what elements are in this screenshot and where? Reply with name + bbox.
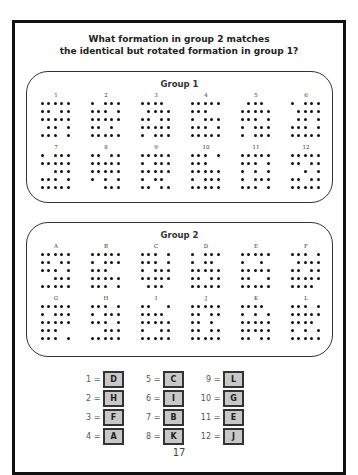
equals-sign: = (151, 394, 163, 403)
dot-icon (215, 266, 222, 274)
dot-icon (65, 183, 72, 191)
dot-icon (315, 310, 322, 318)
formation-label: 10 (181, 144, 231, 150)
dot-grid (289, 250, 322, 290)
dot-grid (239, 302, 272, 342)
dot-icon (115, 310, 122, 318)
dot-icon (215, 274, 222, 282)
dot-formation: D (181, 243, 231, 295)
dot-formation: 8 (81, 144, 131, 196)
dot-formation: E (231, 243, 281, 295)
dot-icon (215, 167, 222, 175)
dot-icon (265, 318, 272, 326)
dot-grid (189, 99, 222, 139)
dot-icon (165, 183, 172, 191)
dot-formation: 1 (31, 92, 81, 144)
dot-icon (215, 318, 222, 326)
answer-entry: 6=I (135, 389, 195, 408)
dot-icon (215, 326, 222, 334)
dot-icon (315, 326, 322, 334)
answer-entry: 8=K (135, 427, 195, 446)
equals-sign: = (91, 432, 103, 441)
answer-box: I (163, 390, 184, 407)
dot-icon (65, 115, 72, 123)
dot-icon (265, 167, 272, 175)
answer-box: F (103, 409, 124, 426)
equals-sign: = (151, 432, 163, 441)
dot-formation: C (131, 243, 181, 295)
answer-box: C (163, 371, 184, 388)
dot-icon (115, 175, 122, 183)
formation-label: K (231, 295, 281, 301)
formation-label: C (131, 243, 181, 249)
dot-grid (39, 151, 72, 191)
dot-icon (65, 175, 72, 183)
dot-grid (239, 151, 272, 191)
dot-icon (215, 151, 222, 159)
dot-icon (215, 258, 222, 266)
group-1-title: Group 1 (27, 79, 332, 89)
puzzle-question: What formation in group 2 matches the id… (15, 33, 343, 57)
dot-grid (89, 151, 122, 191)
equals-sign: = (211, 375, 223, 384)
equals-sign: = (211, 413, 223, 422)
dot-icon (165, 274, 172, 282)
dot-icon (315, 175, 322, 183)
dot-grid (189, 151, 222, 191)
answer-box: G (223, 390, 244, 407)
formation-label: 2 (81, 92, 131, 98)
dot-icon (265, 151, 272, 159)
dot-icon (265, 131, 272, 139)
formation-label: 1 (31, 92, 81, 98)
formation-label: 4 (181, 92, 231, 98)
answer-number: 6 (135, 394, 151, 403)
dot-formation: H (81, 295, 131, 347)
formation-label: B (81, 243, 131, 249)
dot-formation: 9 (131, 144, 181, 196)
dot-icon (215, 115, 222, 123)
group-1-formations: 123456789101112 (31, 92, 331, 196)
page-number: 17 (15, 447, 343, 458)
dot-grid (289, 99, 322, 139)
dot-icon (265, 282, 272, 290)
formation-label: E (231, 243, 281, 249)
answer-number: 3 (75, 413, 91, 422)
dot-grid (189, 302, 222, 342)
equals-sign: = (91, 413, 103, 422)
formation-label: 5 (231, 92, 281, 98)
group-2-panel: Group 2 ABCDEFGHIJKL (26, 222, 333, 357)
dot-icon (165, 107, 172, 115)
answer-entry: 2=H (75, 389, 135, 408)
dot-icon (315, 282, 322, 290)
dot-icon (65, 334, 72, 342)
dot-icon (265, 310, 272, 318)
dot-icon (315, 123, 322, 131)
equals-sign: = (151, 413, 163, 422)
dot-icon (215, 183, 222, 191)
formation-label: I (131, 295, 181, 301)
answer-box: K (163, 428, 184, 445)
answer-number: 12 (195, 432, 211, 441)
dot-icon (315, 167, 322, 175)
answer-box: L (223, 371, 244, 388)
formation-label: 8 (81, 144, 131, 150)
dot-icon (115, 334, 122, 342)
dot-icon (215, 282, 222, 290)
dot-icon (65, 151, 72, 159)
dot-icon (265, 266, 272, 274)
answer-number: 2 (75, 394, 91, 403)
dot-icon (265, 175, 272, 183)
dot-icon (115, 318, 122, 326)
dot-icon (65, 123, 72, 131)
dot-icon (115, 302, 122, 310)
answer-box: J (223, 428, 244, 445)
dot-icon (115, 123, 122, 131)
dot-icon (165, 266, 172, 274)
puzzle-page-frame: What formation in group 2 matches the id… (12, 20, 346, 475)
dot-icon (65, 266, 72, 274)
dot-icon (165, 159, 172, 167)
answer-entry: 10=G (195, 389, 255, 408)
dot-icon (115, 131, 122, 139)
dot-icon (265, 123, 272, 131)
dot-formation: 2 (81, 92, 131, 144)
